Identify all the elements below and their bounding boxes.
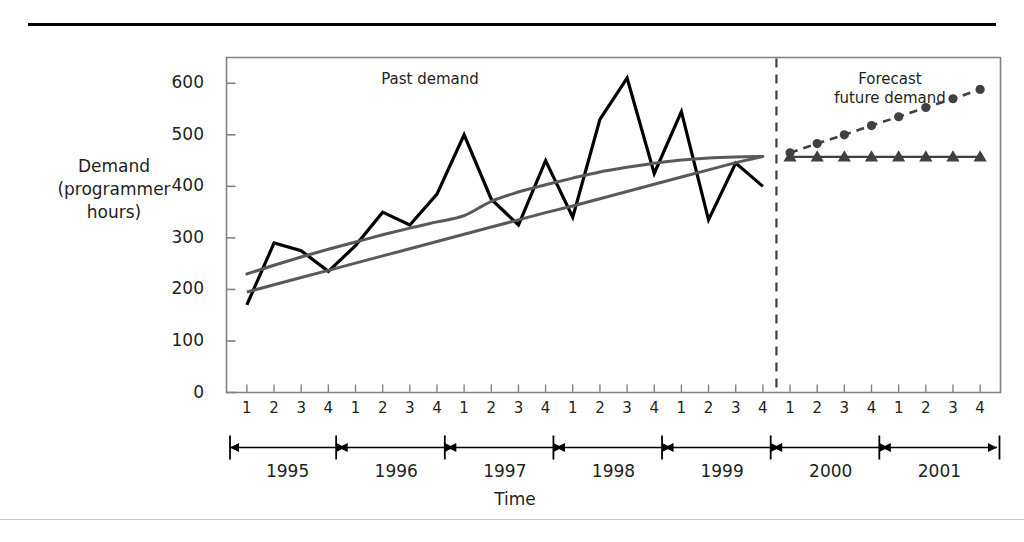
x-tick-label-quarter: 1: [455, 399, 473, 417]
x-tick-label-quarter: 3: [944, 399, 962, 417]
x-tick-label-quarter: 1: [890, 399, 908, 417]
forecast-circle-marker: [840, 130, 849, 139]
x-tick-label-quarter: 2: [374, 399, 392, 417]
x-tick-label-quarter: 2: [265, 399, 283, 417]
year-label: 1997: [460, 461, 550, 481]
year-label: 1995: [243, 461, 333, 481]
x-tick-label-quarter: 3: [727, 399, 745, 417]
y-tick-label: 100: [150, 330, 204, 350]
trend-curve-curved-trend: [247, 156, 763, 274]
x-tick-label-quarter: 4: [754, 399, 772, 417]
year-label: 1996: [351, 461, 441, 481]
y-tick-label: 400: [150, 175, 204, 195]
y-tick-label: 500: [150, 124, 204, 144]
x-tick-label-quarter: 1: [781, 399, 799, 417]
series-line-linear-trend: [247, 156, 763, 292]
x-tick-label-quarter: 1: [672, 399, 690, 417]
x-tick-label-quarter: 3: [292, 399, 310, 417]
x-tick-label-quarter: 3: [618, 399, 636, 417]
x-tick-label-quarter: 2: [808, 399, 826, 417]
year-arrow-left: [665, 443, 674, 452]
x-tick-label-quarter: 1: [238, 399, 256, 417]
page-rule-bottom: [0, 519, 1024, 520]
forecast-circle-marker: [867, 121, 876, 130]
x-tick-label-quarter: 2: [917, 399, 935, 417]
x-tick-label-quarter: 4: [971, 399, 989, 417]
x-tick-label-quarter: 4: [863, 399, 881, 417]
y-tick-label: 300: [150, 227, 204, 247]
year-arrow-right: [988, 443, 997, 452]
forecast-circle-marker: [976, 85, 985, 94]
x-tick-label-quarter: 4: [428, 399, 446, 417]
year-arrow-left: [773, 443, 782, 452]
x-tick-label-quarter: 4: [645, 399, 663, 417]
year-arrow-left: [230, 443, 239, 452]
figure-quarterly-demand-forecast: Demand (programmer hours) Past demand Fo…: [0, 0, 1024, 542]
y-tick-label: 200: [150, 278, 204, 298]
year-arrow-left: [447, 443, 456, 452]
x-tick-label-quarter: 3: [401, 399, 419, 417]
x-tick-label-quarter: 3: [835, 399, 853, 417]
plot-frame: [227, 58, 1001, 393]
x-tick-label-quarter: 2: [591, 399, 609, 417]
year-arrow-left: [882, 443, 891, 452]
year-label: 1998: [569, 461, 659, 481]
x-tick-label-quarter: 3: [509, 399, 527, 417]
year-label: 2000: [786, 461, 876, 481]
forecast-circle-marker: [921, 103, 930, 112]
forecast-circle-marker: [894, 112, 903, 121]
x-tick-label-quarter: 1: [564, 399, 582, 417]
year-arrow-left: [339, 443, 348, 452]
x-tick-label-quarter: 2: [700, 399, 718, 417]
x-tick-label-quarter: 2: [482, 399, 500, 417]
y-tick-label: 0: [150, 382, 204, 402]
forecast-circle-marker: [948, 94, 957, 103]
y-tick-label: 600: [150, 72, 204, 92]
year-label: 1999: [677, 461, 767, 481]
x-tick-label-quarter: 1: [347, 399, 365, 417]
year-arrow-left: [556, 443, 565, 452]
forecast-circle-marker: [813, 139, 822, 148]
x-tick-label-quarter: 4: [319, 399, 337, 417]
x-tick-label-quarter: 4: [537, 399, 555, 417]
year-label: 2001: [894, 461, 984, 481]
